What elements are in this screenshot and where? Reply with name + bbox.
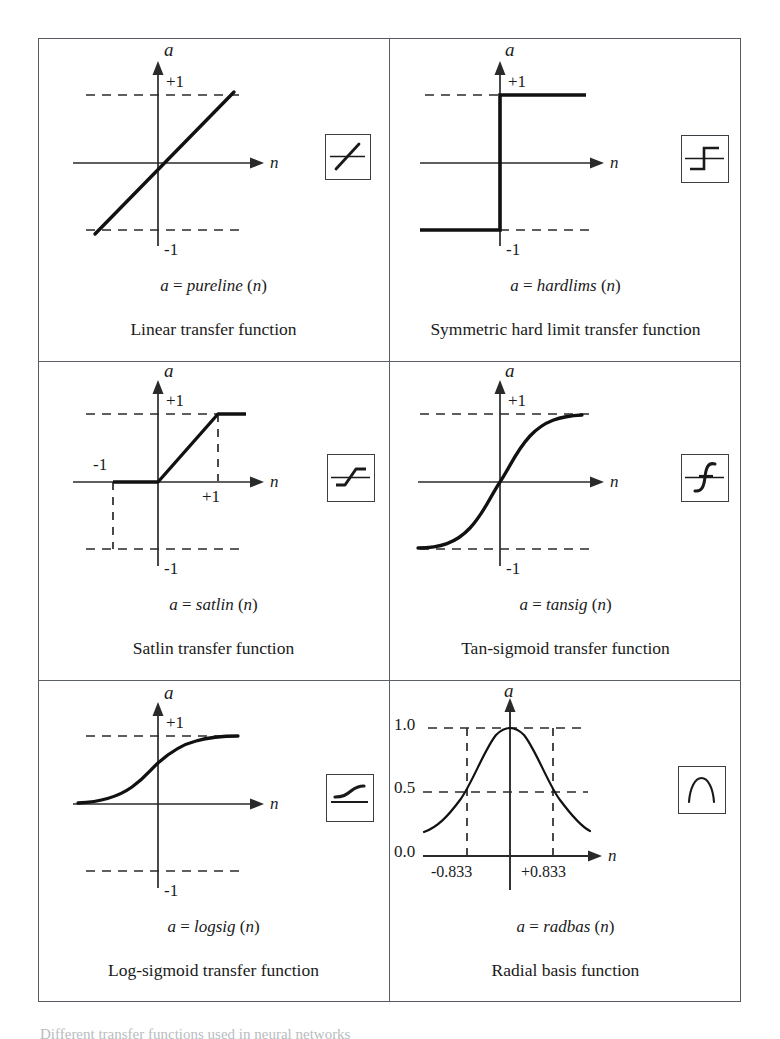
- y-tick-plus-one: +1: [508, 73, 526, 90]
- bell-curve-icon: [678, 766, 726, 814]
- equation-argument: (n): [592, 595, 612, 614]
- x-axis-label: n: [608, 847, 617, 864]
- caption-logsig: Log-sigmoid transfer function: [38, 960, 389, 981]
- saturating-linear-icon: [327, 454, 375, 502]
- plot-hardlims: [390, 38, 741, 361]
- x-axis-label: n: [270, 795, 279, 812]
- y-tick-minus-one: -1: [506, 241, 520, 258]
- caption-hardlims: Symmetric hard limit transfer function: [390, 319, 741, 340]
- x-tick-negative: -0.833: [431, 864, 472, 880]
- caption-radbas: Radial basis function: [390, 960, 741, 981]
- cell-satlin: a n +1 -1 -1 +1 a = satlin (n) Satlin tr…: [38, 361, 389, 680]
- x-tick-plus-one: +1: [202, 488, 220, 505]
- equation-equals: =: [182, 595, 192, 614]
- plot-logsig: [38, 680, 389, 1002]
- equation-argument: (n): [240, 917, 260, 936]
- equation-satlin: a = satlin (n): [38, 595, 389, 615]
- equation-function: radbas: [543, 917, 590, 936]
- equation-lhs: a: [169, 595, 178, 614]
- equation-function: tansig: [546, 595, 588, 614]
- equation-tansig: a = tansig (n): [390, 595, 741, 615]
- equation-pureline: a = pureline (n): [38, 276, 389, 296]
- y-axis-label: a: [505, 40, 515, 59]
- equation-argument: (n): [595, 917, 615, 936]
- sigmoid-f-icon: [681, 454, 729, 502]
- cell-tansig: a n +1 -1 a = tansig (n) Tan-sigmoid tra…: [390, 361, 741, 680]
- step-icon: [681, 135, 729, 183]
- x-axis-label: n: [610, 154, 619, 171]
- equation-equals: =: [532, 595, 542, 614]
- y-tick-minus-one: -1: [164, 560, 178, 577]
- equation-argument: (n): [601, 276, 621, 295]
- equation-lhs: a: [160, 276, 169, 295]
- y-axis-label: a: [164, 361, 174, 380]
- y-tick-plus-one: +1: [166, 73, 184, 90]
- caption-tansig: Tan-sigmoid transfer function: [390, 638, 741, 659]
- y-tick-zero-point-five: 0.5: [394, 779, 415, 796]
- y-axis-label: a: [164, 683, 174, 702]
- y-tick-one-point-zero: 1.0: [394, 716, 415, 733]
- cell-hardlims: a n +1 -1 a = hardlims (n) Symmetric har…: [390, 38, 741, 361]
- x-axis-label: n: [610, 473, 619, 490]
- y-axis-label: a: [164, 40, 174, 59]
- equation-lhs: a: [519, 595, 528, 614]
- caption-pureline: Linear transfer function: [38, 319, 389, 340]
- cell-logsig: a n +1 -1 a = logsig (n) Log-sigmoid tra…: [38, 680, 389, 1002]
- equation-equals: =: [523, 276, 533, 295]
- linear-ramp-icon: [325, 134, 371, 180]
- equation-equals: =: [180, 917, 190, 936]
- equation-argument: (n): [238, 595, 258, 614]
- equation-function: satlin: [196, 595, 234, 614]
- plot-pureline: [38, 38, 389, 361]
- equation-function: hardlims: [537, 276, 597, 295]
- x-axis-label: n: [270, 473, 279, 490]
- equation-logsig: a = logsig (n): [38, 917, 389, 937]
- cell-pureline: a n +1 -1 a = pureline (n) Linear transf…: [38, 38, 389, 361]
- y-tick-plus-one: +1: [166, 392, 184, 409]
- y-tick-plus-one: +1: [166, 714, 184, 731]
- equation-function: pureline: [187, 276, 243, 295]
- equation-lhs: a: [510, 276, 519, 295]
- plot-tansig: [390, 361, 741, 680]
- figure-sheet: a n +1 -1 a = pureline (n) Linear transf…: [0, 0, 780, 1039]
- y-tick-minus-one: -1: [164, 882, 178, 899]
- log-sigmoid-icon: [326, 774, 374, 822]
- equation-radbas: a = radbas (n): [390, 917, 741, 937]
- plot-radbas: [390, 680, 741, 1002]
- plot-satlin: [38, 361, 389, 680]
- equation-hardlims: a = hardlims (n): [390, 276, 741, 296]
- y-axis-label: a: [505, 361, 515, 380]
- y-tick-zero-point-zero: 0.0: [394, 843, 415, 860]
- equation-function: logsig: [194, 917, 236, 936]
- caption-satlin: Satlin transfer function: [38, 638, 389, 659]
- figure-bottom-caption: Different transfer functions used in neu…: [40, 1026, 740, 1039]
- y-tick-minus-one: -1: [506, 560, 520, 577]
- x-axis-label: n: [270, 154, 279, 171]
- equation-argument: (n): [247, 276, 267, 295]
- equation-lhs: a: [167, 917, 176, 936]
- x-tick-minus-one: -1: [93, 456, 107, 473]
- x-tick-positive: +0.833: [521, 864, 566, 880]
- y-axis-label: a: [504, 681, 514, 700]
- equation-lhs: a: [517, 917, 526, 936]
- equation-equals: =: [529, 917, 539, 936]
- cell-radbas: a n 1.0 0.5 0.0 -0.833 +0.833 a = radbas…: [390, 680, 741, 1002]
- y-tick-minus-one: -1: [164, 241, 178, 258]
- y-tick-plus-one: +1: [508, 392, 526, 409]
- equation-equals: =: [173, 276, 183, 295]
